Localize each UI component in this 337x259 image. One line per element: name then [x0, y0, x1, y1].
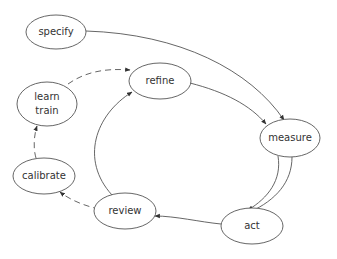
node-label-line2: train	[35, 105, 58, 116]
edge-measure-to-act-1	[248, 156, 279, 210]
edge-review-to-refine	[95, 92, 132, 195]
node-label: specify	[38, 26, 73, 37]
node-label: calibrate	[22, 170, 66, 181]
node-measure[interactable]: measure	[260, 119, 320, 157]
edge-calibrate-to-learn-train	[34, 126, 37, 158]
edge-review-to-calibrate	[60, 192, 99, 209]
edge-measure-to-act-2	[250, 157, 292, 212]
node-specify[interactable]: specify	[26, 15, 86, 49]
edge-refine-to-measure	[190, 83, 266, 124]
node-label-line1: learn	[34, 91, 59, 102]
diagram-canvas: specify refine learn train measure calib…	[0, 0, 337, 259]
node-refine[interactable]: refine	[129, 63, 191, 99]
node-label: measure	[268, 132, 312, 143]
node-calibrate[interactable]: calibrate	[13, 158, 75, 194]
node-act[interactable]: act	[221, 208, 283, 244]
edge-learn-train-to-refine	[68, 70, 130, 84]
node-label: act	[244, 220, 260, 231]
node-learn-train[interactable]: learn train	[17, 82, 77, 126]
node-label: refine	[146, 75, 175, 86]
edge-act-to-review	[155, 216, 221, 224]
node-label: review	[108, 205, 141, 216]
node-review[interactable]: review	[94, 193, 156, 229]
